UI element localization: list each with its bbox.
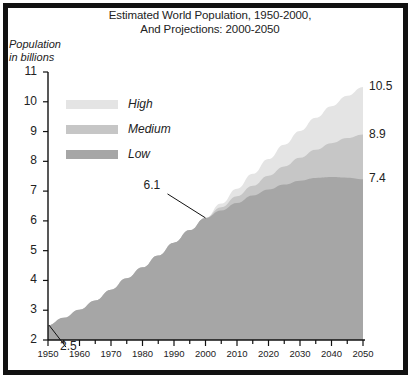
- y-tick-label: 3: [15, 302, 37, 316]
- legend-swatch-icon: [66, 150, 118, 159]
- chart-plot-area: [0, 0, 417, 384]
- end-label-high: 10.5: [369, 79, 392, 93]
- legend-swatch-icon: [66, 125, 118, 134]
- y-tick-label: 8: [15, 153, 37, 167]
- x-tick-label: 1990: [157, 348, 191, 359]
- x-tick-label: 1980: [126, 348, 160, 359]
- legend-label: Medium: [128, 122, 171, 136]
- x-tick-label: 2010: [220, 348, 254, 359]
- x-tick-label: 1970: [94, 348, 128, 359]
- x-tick-label: 2050: [346, 348, 380, 359]
- legend-label: Low: [128, 147, 150, 161]
- y-tick-label: 4: [15, 272, 37, 286]
- x-tick-label: 2000: [189, 348, 223, 359]
- legend-swatch-icon: [66, 100, 118, 109]
- legend-label: High: [128, 97, 153, 111]
- y-tick-label: 6: [15, 213, 37, 227]
- y-tick-label: 11: [15, 64, 37, 78]
- end-label-medium: 8.9: [369, 127, 386, 141]
- end-label-low: 7.4: [369, 171, 386, 185]
- annotation-6-1: 6.1: [144, 178, 161, 192]
- chart-stage: Estimated World Population, 1950-2000, A…: [0, 0, 417, 384]
- y-tick-label: 5: [15, 243, 37, 257]
- x-tick-label: 2040: [315, 348, 349, 359]
- x-tick-label: 2020: [252, 348, 286, 359]
- annotation-2-5: 2.5: [60, 339, 77, 353]
- y-tick-label: 9: [15, 124, 37, 138]
- y-tick-label: 10: [15, 94, 37, 108]
- y-tick-label: 7: [15, 183, 37, 197]
- x-tick-label: 2030: [283, 348, 317, 359]
- y-tick-label: 2: [15, 332, 37, 346]
